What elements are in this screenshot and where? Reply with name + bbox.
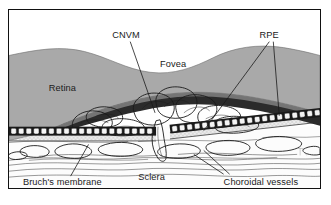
diagram-frame: CNVM RPE Fovea Retina Sclera Bruch's mem… — [8, 9, 321, 189]
label-sclera: Sclera — [138, 172, 166, 182]
label-bruchs-membrane: Bruch's membrane — [23, 177, 102, 187]
rpe-row-left — [9, 127, 156, 136]
label-rpe: RPE — [259, 30, 278, 40]
anatomical-cross-section-diagram: CNVM RPE Fovea Retina Sclera Bruch's mem… — [9, 10, 320, 188]
label-cnvm: CNVM — [112, 30, 140, 40]
label-choroidal-vessels: Choroidal vessels — [224, 177, 299, 187]
label-fovea: Fovea — [160, 59, 187, 69]
label-retina: Retina — [49, 83, 77, 93]
figure-root: CNVM RPE Fovea Retina Sclera Bruch's mem… — [0, 0, 331, 205]
